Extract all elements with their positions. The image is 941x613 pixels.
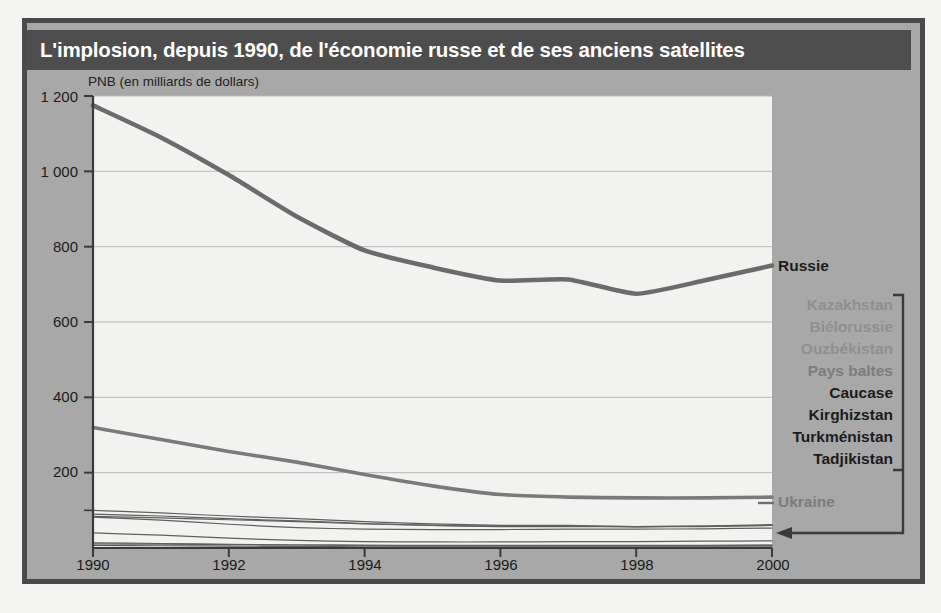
x-tick-label-1990: 1990 (58, 556, 128, 573)
legend-label-kirghizstan: Kirghizstan (809, 406, 893, 424)
legend-label-tadjikistan: Tadjikistan (813, 450, 893, 468)
legend-label-caucase: Caucase (829, 384, 893, 402)
x-tick-label-1992: 1992 (194, 556, 264, 573)
legend-label-bielorussie: Biélorussie (809, 318, 893, 336)
y-tick-label-1200: 1 200 (8, 88, 78, 105)
legend-label-ouzbekistan: Ouzbékistan (801, 340, 893, 358)
page-title: L'implosion, depuis 1990, de l'économie … (26, 38, 745, 62)
legend-label-ukraine: Ukraine (778, 493, 835, 511)
x-tick-label-1996: 1996 (466, 556, 536, 573)
y-tick-label-600: 600 (8, 313, 78, 330)
legend-label-kazakhstan: Kazakhstan (807, 296, 893, 314)
y-tick-label-400: 400 (8, 388, 78, 405)
title-banner: L'implosion, depuis 1990, de l'économie … (26, 30, 911, 70)
y-tick-label-200: 200 (8, 463, 78, 480)
legend-label-turkmenistan: Turkménistan (793, 428, 894, 446)
y-axis-caption: PNB (en milliards de dollars) (88, 74, 259, 89)
x-tick-label-1998: 1998 (602, 556, 672, 573)
plot-area (93, 96, 772, 548)
y-tick-label-1000: 1 000 (8, 163, 78, 180)
figure-root: L'implosion, depuis 1990, de l'économie … (0, 0, 941, 613)
y-tick-label-800: 800 (8, 238, 78, 255)
x-tick-label-1994: 1994 (330, 556, 400, 573)
legend-label-pays-baltes: Pays baltes (808, 362, 893, 380)
x-tick-label-2000: 2000 (738, 556, 808, 573)
legend-label-russie: Russie (778, 257, 829, 275)
